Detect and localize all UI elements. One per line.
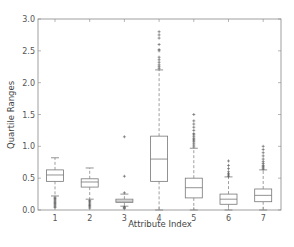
box-plot-chart: 0.00.51.01.52.02.53.01234567 Attribute I…	[0, 0, 294, 247]
y-tick-label: 1.5	[22, 111, 35, 120]
box-2	[81, 168, 98, 210]
x-tick-label: 2	[87, 214, 92, 223]
axes: 0.00.51.01.52.02.53.01234567	[22, 15, 281, 223]
y-tick-label: 3.0	[22, 15, 35, 24]
x-tick-label: 7	[261, 214, 266, 223]
y-tick-label: 0.5	[22, 174, 35, 183]
box-7	[255, 145, 272, 210]
cropped-caption	[4, 238, 290, 247]
y-tick-label: 2.5	[22, 47, 35, 56]
box-1	[47, 158, 64, 209]
box-6	[220, 159, 237, 210]
box-3	[116, 135, 133, 210]
x-tick-label: 5	[191, 214, 196, 223]
box-5	[185, 113, 202, 210]
y-tick-label: 0.0	[22, 206, 35, 215]
x-tick-label: 6	[226, 214, 231, 223]
x-axis-label: Attribute Index	[128, 219, 192, 229]
plot-area	[47, 30, 272, 210]
y-tick-label: 2.0	[22, 79, 35, 88]
y-axis-label: Quartile Ranges	[6, 80, 16, 149]
x-tick-label: 1	[52, 214, 57, 223]
x-tick-label: 3	[122, 214, 127, 223]
iqr-box	[47, 170, 64, 181]
iqr-box	[81, 179, 98, 187]
box-4	[151, 30, 168, 210]
y-tick-label: 1.0	[22, 142, 35, 151]
